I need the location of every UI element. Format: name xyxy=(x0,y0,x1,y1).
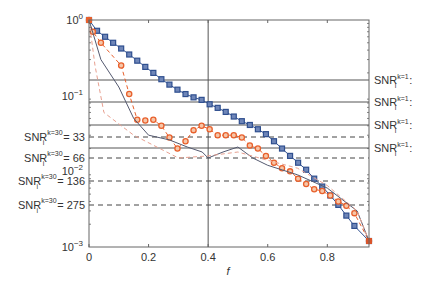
square-marker xyxy=(304,167,309,172)
circle-marker xyxy=(119,63,124,68)
snr-k1-label: SNRk=1i: xyxy=(374,141,412,157)
snr-k30-label: SNRk=30i = 275 xyxy=(18,197,85,214)
square-marker xyxy=(296,160,301,165)
square-marker xyxy=(111,40,116,45)
snr-k1-label: SNRk=1i: xyxy=(374,73,412,89)
y-tick-label: 100 xyxy=(66,12,83,26)
x-tick-label: 0.8 xyxy=(320,251,335,263)
square-marker xyxy=(344,213,349,218)
circle-marker xyxy=(207,127,212,132)
square-marker xyxy=(215,105,220,110)
snr-k30-label: SNRk=30i = 33 xyxy=(24,129,85,146)
chart-canvas: SNRk=1i:SNRk=1i:SNRk=1i:SNRk=1i:SNRk=30i… xyxy=(0,0,424,289)
circle-marker xyxy=(296,176,301,181)
circle-marker xyxy=(336,199,341,204)
square-marker xyxy=(167,82,172,87)
square-marker xyxy=(159,77,164,82)
square-marker xyxy=(263,132,268,137)
square-marker xyxy=(352,223,357,228)
square-marker xyxy=(207,102,212,107)
circle-marker xyxy=(263,153,268,158)
square-marker xyxy=(103,34,108,39)
snr-k1-label: SNRk=1i: xyxy=(374,95,412,111)
square-marker xyxy=(231,114,236,119)
square-marker xyxy=(175,87,180,92)
circle-marker xyxy=(239,135,244,140)
circle-marker xyxy=(183,139,188,144)
circle-marker xyxy=(127,91,132,96)
square-marker xyxy=(280,146,285,151)
circle-marker xyxy=(304,181,309,186)
snr-k1-label: SNRk=1i: xyxy=(374,118,412,134)
circle-marker xyxy=(191,128,196,133)
square-marker xyxy=(255,127,260,132)
square-marker xyxy=(271,139,276,144)
square-marker xyxy=(143,64,148,69)
circle-marker xyxy=(328,193,333,198)
y-tick-label: 10−1 xyxy=(62,88,84,102)
square-marker xyxy=(151,70,156,75)
square-marker xyxy=(247,122,252,127)
circle-marker xyxy=(247,143,252,148)
series-layer xyxy=(86,17,372,244)
circle-marker xyxy=(159,123,164,128)
circle-marker xyxy=(175,146,180,151)
square-marker xyxy=(239,119,244,124)
circle-marker xyxy=(320,188,325,193)
square-marker xyxy=(135,58,140,63)
x-tick-label: 0.2 xyxy=(141,251,156,263)
circle-marker xyxy=(352,211,357,216)
square-marker xyxy=(127,52,132,57)
circle-marker xyxy=(199,123,204,128)
x-tick-label: 0 xyxy=(86,251,92,263)
circle-marker xyxy=(231,133,236,138)
square-marker xyxy=(119,46,124,51)
circle-marker xyxy=(215,133,220,138)
square-marker xyxy=(183,92,188,97)
square-marker xyxy=(199,97,204,102)
circle-marker xyxy=(151,117,156,122)
x-tick-label: 0.6 xyxy=(260,251,275,263)
x-axis-label: f xyxy=(226,265,230,277)
y-tick-label: 10−3 xyxy=(62,239,84,253)
snr-k30-label: SNRk=30i = 136 xyxy=(18,173,85,190)
square-marker xyxy=(223,109,228,114)
circle-marker xyxy=(312,187,317,192)
x-tick-label: 0.4 xyxy=(201,251,216,263)
circle-marker xyxy=(98,40,103,45)
circle-marker xyxy=(143,118,148,123)
square-marker xyxy=(191,95,196,100)
square-marker xyxy=(288,153,293,158)
circle-marker xyxy=(255,146,260,151)
circle-marker xyxy=(223,133,228,138)
